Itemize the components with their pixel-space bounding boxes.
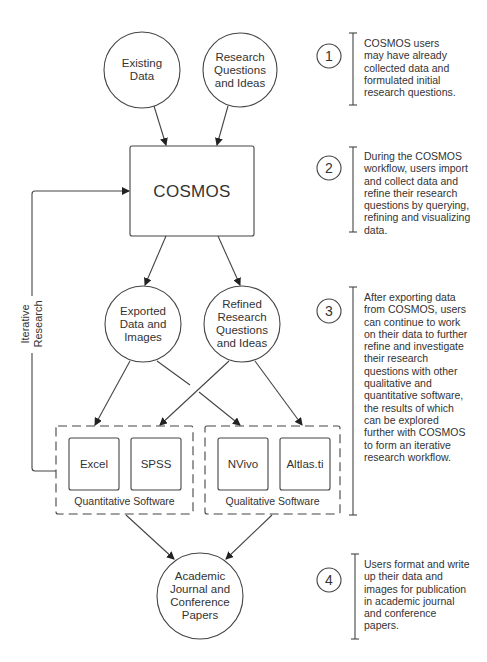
arrow-exported-to-excel — [95, 361, 130, 425]
atlas-label: Altlas.ti — [280, 438, 330, 490]
excel-label: Excel — [69, 438, 119, 490]
refined-questions-label: Refined Research Questions and Ideas — [204, 286, 280, 362]
step-1-description: COSMOS users may have already collected … — [364, 37, 456, 98]
nvivo-label: NVivo — [218, 438, 268, 490]
step-1-number: 1 — [317, 44, 341, 68]
step-4-description: Users format and write up their data and… — [364, 558, 470, 632]
iterative-research-label: Iterative Research — [19, 294, 45, 354]
arrow-cosmos-to-exported — [145, 236, 166, 285]
arrow-research-to-cosmos — [217, 106, 228, 145]
quantitative-group-label: Quantitative Software — [56, 495, 193, 507]
spss-label: SPSS — [131, 438, 181, 490]
step-2-bracket — [349, 147, 357, 232]
step-2-description: During the COSMOS workflow, users import… — [364, 150, 470, 236]
step-3-bracket — [349, 287, 357, 515]
step-3-description: After exporting data from COSMOS, users … — [364, 291, 467, 463]
step-3-number: 3 — [317, 299, 341, 323]
qualitative-group-label: Qualitative Software — [205, 495, 340, 507]
step-4-bracket — [351, 554, 359, 639]
arrow-existing-to-cosmos — [154, 106, 166, 145]
cosmos-label: COSMOS — [130, 146, 254, 236]
research-questions-label: Research Questions and Ideas — [203, 33, 277, 107]
step-4-number: 4 — [317, 568, 341, 592]
existing-data-label: Existing Data — [104, 32, 180, 108]
arrow-exported-to-nvivo — [157, 361, 240, 425]
arrow-refined-to-atlas — [255, 361, 302, 425]
exported-data-label: Exported Data and Images — [105, 286, 181, 362]
step-1-bracket — [349, 33, 357, 105]
academic-papers-label: Academic Journal and Conference Papers — [157, 553, 243, 639]
arrow-cosmos-to-refined — [218, 236, 240, 285]
step-2-number: 2 — [317, 156, 341, 180]
